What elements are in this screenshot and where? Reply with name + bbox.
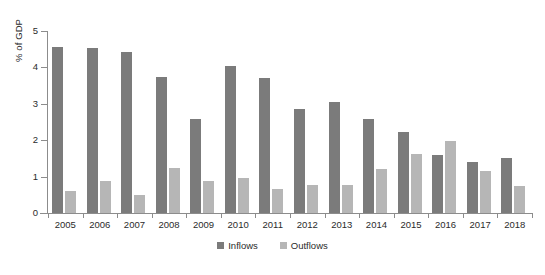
bar-group [497, 31, 532, 213]
bar-group [152, 31, 187, 213]
x-tick-mark [221, 213, 222, 218]
legend-label: Inflows [228, 241, 258, 251]
legend-item-inflows[interactable]: Inflows [217, 241, 258, 251]
bar-inflows-2010 [225, 66, 236, 213]
bar-outflows-2012 [307, 185, 318, 213]
bar-group [117, 31, 152, 213]
y-tick-label: 0 [18, 208, 38, 218]
bar-inflows-2018 [501, 158, 512, 213]
bar-outflows-2008 [169, 168, 180, 213]
bar-group [255, 31, 290, 213]
bar-inflows-2007 [121, 52, 132, 213]
bar-inflows-2014 [363, 119, 374, 213]
x-tick-mark [497, 213, 498, 218]
bar-inflows-2016 [432, 155, 443, 213]
bar-outflows-2015 [411, 154, 422, 213]
bar-group [394, 31, 429, 213]
x-tick-mark [117, 213, 118, 218]
bar-inflows-2008 [156, 77, 167, 213]
y-tick-mark [41, 140, 47, 141]
bar-inflows-2013 [329, 102, 340, 213]
bar-outflows-2009 [203, 181, 214, 213]
chart-legend: InflowsOutflows [0, 241, 545, 251]
bar-outflows-2016 [445, 141, 456, 213]
bar-group [83, 31, 118, 213]
y-tick-label: 2 [18, 135, 38, 145]
x-tick-mark [290, 213, 291, 218]
bar-inflows-2006 [87, 48, 98, 213]
legend-item-outflows[interactable]: Outflows [280, 241, 328, 251]
x-tick-mark [428, 213, 429, 218]
y-tick-label: 4 [18, 62, 38, 72]
y-tick-label: 5 [18, 26, 38, 36]
x-tick-mark [325, 213, 326, 218]
bar-inflows-2005 [52, 47, 63, 213]
y-tick-mark [41, 67, 47, 68]
bar-group [325, 31, 360, 213]
bar-outflows-2014 [376, 169, 387, 213]
bar-outflows-2010 [238, 178, 249, 213]
x-axis-line [40, 213, 532, 214]
bar-group [290, 31, 325, 213]
bar-outflows-2017 [480, 171, 491, 213]
bar-group [359, 31, 394, 213]
bar-group [221, 31, 256, 213]
bar-inflows-2009 [190, 119, 201, 213]
bar-group [428, 31, 463, 213]
bar-group [186, 31, 221, 213]
y-tick-mark [41, 31, 47, 32]
bar-group [48, 31, 83, 213]
bar-inflows-2011 [259, 78, 270, 213]
legend-swatch-icon [280, 242, 287, 249]
bar-outflows-2018 [514, 186, 525, 213]
y-tick-mark [41, 177, 47, 178]
x-tick-label-2018: 2018 [495, 220, 535, 230]
y-tick-label: 3 [18, 99, 38, 109]
plot-area [48, 31, 532, 213]
x-tick-mark [48, 213, 49, 218]
x-tick-mark [186, 213, 187, 218]
legend-swatch-icon [217, 242, 224, 249]
bar-outflows-2007 [134, 195, 145, 213]
x-tick-mark [532, 213, 533, 218]
x-tick-mark [255, 213, 256, 218]
x-tick-mark [394, 213, 395, 218]
y-tick-mark [41, 104, 47, 105]
bar-outflows-2011 [272, 189, 283, 213]
bar-outflows-2006 [100, 181, 111, 213]
x-tick-mark [359, 213, 360, 218]
legend-label: Outflows [291, 241, 328, 251]
x-tick-mark [152, 213, 153, 218]
bar-chart: % of GDP 012345 200520062007200820092010… [0, 0, 545, 275]
x-tick-mark [463, 213, 464, 218]
bar-inflows-2017 [467, 162, 478, 213]
bar-inflows-2012 [294, 109, 305, 213]
bar-group [463, 31, 498, 213]
x-tick-mark [83, 213, 84, 218]
bar-inflows-2015 [398, 132, 409, 213]
bar-outflows-2013 [342, 185, 353, 213]
y-tick-label: 1 [18, 172, 38, 182]
bar-outflows-2005 [65, 191, 76, 213]
